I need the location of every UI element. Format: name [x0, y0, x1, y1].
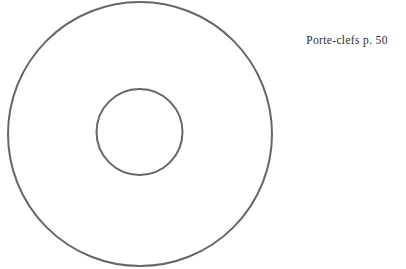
- annular-disc-diagram: [0, 0, 282, 269]
- catalog-figure-page: Porte-clefs p. 50: [0, 0, 406, 269]
- outer-circle-outline: [8, 2, 272, 266]
- figure-container: [0, 0, 282, 269]
- caption-container: Porte-clefs p. 50: [288, 27, 406, 53]
- caption-label: Porte-clefs p. 50: [306, 33, 388, 47]
- inner-circle-outline: [97, 89, 183, 175]
